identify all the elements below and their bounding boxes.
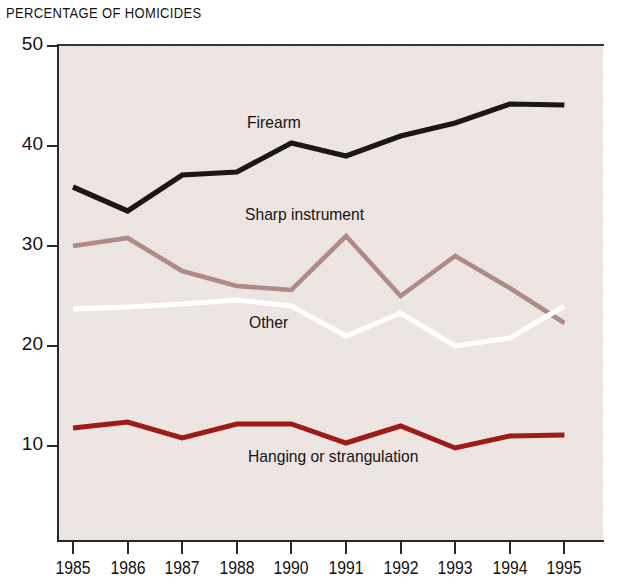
x-axis-tick-label: 1987 xyxy=(151,558,214,579)
x-axis-tick-label: 1995 xyxy=(533,558,596,579)
series-line-hanging-or-strangulation xyxy=(73,422,564,448)
y-axis-tick-label: 40 xyxy=(0,133,43,155)
x-axis-tick xyxy=(72,542,74,554)
y-axis-tick-label: 30 xyxy=(0,233,43,255)
x-axis-tick-label: 1993 xyxy=(424,558,487,579)
y-axis-tick xyxy=(47,245,58,247)
x-axis-tick xyxy=(345,542,347,554)
y-axis-line xyxy=(57,44,59,542)
x-axis-tick-label: 1991 xyxy=(315,558,378,579)
homicide-methods-line-chart: PERCENTAGE OF HOMICIDES 1020304050 19851… xyxy=(0,0,620,584)
x-axis-tick xyxy=(181,542,183,554)
y-axis-tick-label: 20 xyxy=(0,333,43,355)
x-axis-tick xyxy=(509,542,511,554)
x-axis-tick xyxy=(400,542,402,554)
x-axis-tick xyxy=(290,542,292,554)
series-label-hanging: Hanging or strangulation xyxy=(248,447,418,467)
y-axis-tick-label: 10 xyxy=(0,433,43,455)
x-axis-tick xyxy=(563,542,565,554)
x-axis-tick xyxy=(127,542,129,554)
y-axis-tick xyxy=(47,345,58,347)
chart-title: PERCENTAGE OF HOMICIDES xyxy=(6,4,202,22)
series-label-firearm: Firearm xyxy=(247,113,301,133)
x-axis-line xyxy=(57,540,604,542)
x-axis-tick-label: 1990 xyxy=(260,558,323,579)
x-axis-tick-label: 1985 xyxy=(42,558,105,579)
series-line-sharp-instrument xyxy=(73,236,564,323)
y-axis-tick xyxy=(47,145,58,147)
y-axis-tick xyxy=(47,445,58,447)
x-axis-tick xyxy=(236,542,238,554)
series-line-other xyxy=(73,300,564,346)
x-axis-tick xyxy=(454,542,456,554)
y-axis-tick xyxy=(47,45,58,47)
series-line-firearm xyxy=(73,104,564,211)
series-label-other: Other xyxy=(249,313,288,333)
y-axis-tick-label: 50 xyxy=(0,33,43,55)
plot-top-rule xyxy=(57,44,604,46)
series-label-sharp-instrument: Sharp instrument xyxy=(245,205,364,225)
